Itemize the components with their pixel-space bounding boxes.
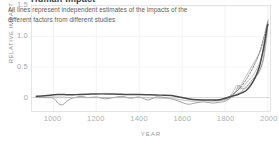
y-tick-label: 1.0: [12, 31, 28, 40]
x-axis-tick-labels: 100012001400160018002000: [31, 114, 271, 128]
x-tick-label: 1000: [44, 114, 62, 123]
x-tick-label: 1600: [174, 114, 192, 123]
x-tick-label: 1400: [130, 114, 148, 123]
x-tick-label: 1800: [217, 114, 235, 123]
x-axis-title: YEAR: [31, 130, 271, 137]
series-line: [221, 30, 268, 100]
page-title: Human Impact: [31, 0, 95, 4]
x-tick-label: 2000: [260, 114, 278, 123]
chart-annotation: All lines represent independent estimate…: [8, 5, 198, 24]
series-line: [36, 24, 268, 100]
series-line: [36, 22, 268, 101]
x-tick-label: 1200: [87, 114, 105, 123]
y-tick-label: 0.5: [12, 62, 28, 71]
y-tick-label: 0: [12, 93, 28, 102]
